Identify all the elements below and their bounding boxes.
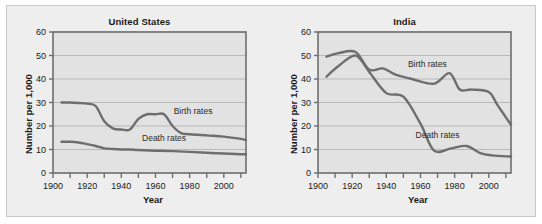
plot-area-india: 0102030405060190019201940196019802000Bir…	[272, 6, 537, 218]
x-tick-label: 2000	[214, 181, 234, 191]
chart-panel-united-states: United States Number per 1,000 Year 0102…	[7, 6, 272, 218]
y-tick-label: 40	[301, 74, 311, 84]
series-annotation-death-rates: Death rates	[142, 133, 186, 143]
chart-panel-india: India Number per 1,000 Year 010203040506…	[272, 6, 537, 218]
y-tick-label: 30	[36, 98, 46, 108]
y-tick-label: 50	[301, 51, 311, 61]
y-tick-label: 40	[36, 74, 46, 84]
y-tick-label: 10	[36, 145, 46, 155]
x-tick-label: 1900	[43, 181, 63, 191]
x-tick-label: 1940	[376, 181, 396, 191]
x-tick-label: 1920	[342, 181, 362, 191]
y-tick-label: 60	[36, 27, 46, 37]
x-tick-label: 2000	[479, 181, 499, 191]
x-tick-label: 1900	[308, 181, 328, 191]
plot-area-united-states: 0102030405060190019201940196019802000Bir…	[7, 6, 272, 218]
y-tick-label: 20	[36, 121, 46, 131]
y-tick-label: 50	[36, 51, 46, 61]
x-tick-label: 1980	[180, 181, 200, 191]
series-annotation-death-rates: Death rates	[416, 130, 460, 140]
x-tick-label: 1940	[111, 181, 131, 191]
x-tick-label: 1960	[145, 181, 165, 191]
x-tick-label: 1920	[77, 181, 97, 191]
y-tick-label: 0	[306, 168, 311, 178]
y-tick-label: 60	[301, 27, 311, 37]
figure-panel: United States Number per 1,000 Year 0102…	[6, 5, 536, 217]
x-tick-label: 1980	[445, 181, 465, 191]
x-tick-label: 1960	[410, 181, 430, 191]
series-annotation-birth-rates: Birth rates	[174, 106, 213, 116]
figure-root: United States Number per 1,000 Year 0102…	[0, 0, 542, 224]
y-tick-label: 10	[301, 145, 311, 155]
y-tick-label: 30	[301, 98, 311, 108]
y-tick-label: 0	[41, 168, 46, 178]
y-tick-label: 20	[301, 121, 311, 131]
series-annotation-birth-rates: Birth rates	[408, 59, 447, 69]
